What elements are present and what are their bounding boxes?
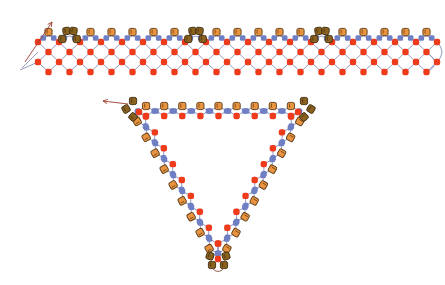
red-bead xyxy=(261,161,267,167)
red-bead xyxy=(255,49,261,55)
blue-bead xyxy=(251,188,257,194)
red-bead xyxy=(215,113,221,119)
brown-cylinder-bead xyxy=(205,251,214,260)
brown-cylinder-bead xyxy=(195,27,203,35)
red-bead xyxy=(371,59,377,65)
blue-bead xyxy=(418,35,424,41)
red-bead xyxy=(140,39,146,45)
red-bead xyxy=(171,69,177,75)
red-bead xyxy=(206,225,212,231)
brown-cylinder-bead xyxy=(73,35,80,42)
orange-cylinder-bead xyxy=(276,28,283,35)
red-bead xyxy=(339,49,345,55)
red-bead xyxy=(402,49,408,55)
blue-bead xyxy=(303,35,309,41)
blue-bead xyxy=(208,108,214,114)
red-bead xyxy=(251,177,257,183)
brown-cylinder-bead xyxy=(208,261,215,268)
orange-cylinder-bead xyxy=(171,28,178,35)
red-bead xyxy=(129,49,135,55)
orange-cylinder-bead xyxy=(141,132,151,142)
red-bead xyxy=(35,59,41,65)
red-bead xyxy=(242,193,248,199)
red-bead xyxy=(197,209,203,215)
brown-cylinder-bead xyxy=(121,104,131,114)
blue-bead xyxy=(166,35,172,41)
blue-bead xyxy=(282,35,288,41)
red-bead xyxy=(161,113,167,119)
red-bead xyxy=(350,59,356,65)
brown-cylinder-bead xyxy=(306,104,316,114)
red-bead xyxy=(215,240,221,246)
brown-cylinder-bead xyxy=(62,27,70,35)
orange-cylinder-bead xyxy=(268,164,278,174)
orange-cylinder-bead xyxy=(240,212,250,222)
red-bead xyxy=(215,256,221,262)
red-bead xyxy=(381,69,387,75)
blue-bead xyxy=(366,35,372,41)
orange-cylinder-bead xyxy=(269,102,276,109)
blue-bead xyxy=(280,108,286,114)
red-bead xyxy=(108,69,114,75)
blue-bead xyxy=(226,108,232,114)
red-bead xyxy=(413,39,419,45)
red-bead xyxy=(402,69,408,75)
orange-cylinder-bead xyxy=(45,28,52,35)
red-bead xyxy=(192,69,198,75)
blue-bead xyxy=(152,139,158,145)
red-bead xyxy=(150,49,156,55)
orange-cylinder-bead xyxy=(177,196,187,206)
diagram-canvas xyxy=(0,0,445,285)
blue-bead xyxy=(229,35,235,41)
orange-cylinder-bead xyxy=(215,102,222,109)
red-bead xyxy=(136,109,142,115)
blue-bead xyxy=(334,35,340,41)
blue-bead xyxy=(240,35,246,41)
orange-cylinder-bead xyxy=(258,180,268,190)
orange-cylinder-bead xyxy=(255,28,262,35)
orange-cylinder-bead xyxy=(87,28,94,35)
red-bead xyxy=(339,69,345,75)
blue-bead xyxy=(135,35,141,41)
blue-bead xyxy=(261,35,267,41)
blue-bead xyxy=(260,173,266,179)
red-bead xyxy=(295,109,301,115)
red-bead xyxy=(224,224,230,230)
red-bead xyxy=(329,59,335,65)
orange-cylinder-bead xyxy=(186,212,196,222)
blue-bead xyxy=(279,141,285,147)
red-bead xyxy=(213,49,219,55)
orange-cylinder-bead xyxy=(179,102,186,109)
red-bead xyxy=(434,59,440,65)
red-bead xyxy=(297,49,303,55)
blue-bead xyxy=(262,108,268,114)
red-bead xyxy=(179,113,185,119)
orange-cylinder-bead xyxy=(168,180,178,190)
blue-bead xyxy=(271,35,277,41)
red-bead xyxy=(255,69,261,75)
blue-bead xyxy=(82,35,88,41)
blue-bead xyxy=(103,35,109,41)
strip-start-arrow xyxy=(25,22,52,62)
orange-cylinder-bead xyxy=(423,28,430,35)
red-bead xyxy=(287,59,293,65)
orange-cylinder-bead xyxy=(197,102,204,109)
blue-bead xyxy=(387,35,393,41)
blue-bead xyxy=(143,123,149,129)
red-bead xyxy=(288,113,294,119)
orange-cylinder-bead xyxy=(108,28,115,35)
brown-cylinder-bead xyxy=(220,261,227,268)
brown-cylinder-bead xyxy=(185,35,192,42)
orange-cylinder-bead xyxy=(249,196,259,206)
orange-cylinder-bead xyxy=(360,28,367,35)
blue-bead xyxy=(269,157,275,163)
brown-cylinder-bead xyxy=(321,27,329,35)
red-bead xyxy=(161,59,167,65)
blue-bead xyxy=(93,35,99,41)
blue-bead xyxy=(215,250,221,256)
red-bead xyxy=(233,113,239,119)
red-bead xyxy=(203,59,209,65)
red-bead xyxy=(423,49,429,55)
orange-cylinder-bead xyxy=(150,148,160,158)
blue-bead xyxy=(114,35,120,41)
